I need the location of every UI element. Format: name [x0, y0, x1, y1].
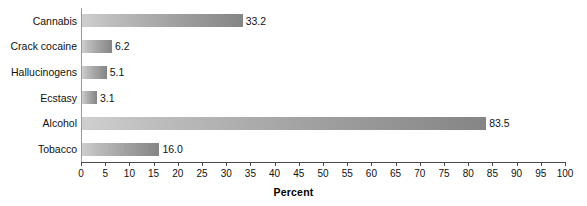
bar-row: Hallucinogens5.1	[0, 59, 587, 85]
bar-chart: Cannabis33.2Crack cocaine6.2Hallucinogen…	[0, 0, 587, 206]
x-tick	[81, 162, 82, 166]
x-tick	[323, 162, 324, 166]
category-label: Tobacco	[0, 143, 77, 155]
bar-row: Crack cocaine6.2	[0, 34, 587, 60]
x-tick	[105, 162, 106, 166]
x-tick	[565, 162, 566, 166]
bar-value-label: 33.2	[246, 15, 266, 27]
x-tick	[492, 162, 493, 166]
bar-value-label: 6.2	[115, 40, 130, 52]
bar-value-label: 3.1	[100, 92, 115, 104]
x-tick	[541, 162, 542, 166]
x-tick	[178, 162, 179, 166]
x-tick	[396, 162, 397, 166]
bar	[82, 117, 486, 130]
bar-row: Ecstasy3.1	[0, 85, 587, 111]
bar	[82, 40, 112, 53]
bar	[82, 14, 243, 27]
bar-value-label: 83.5	[489, 117, 509, 129]
x-axis-title: Percent	[0, 186, 587, 198]
category-label: Alcohol	[0, 117, 77, 129]
bar-row: Alcohol83.5	[0, 111, 587, 137]
bar-row: Tobacco16.0	[0, 136, 587, 162]
x-tick	[347, 162, 348, 166]
category-label: Ecstasy	[0, 92, 77, 104]
bar	[82, 66, 107, 79]
x-tick	[275, 162, 276, 166]
x-tick	[250, 162, 251, 166]
x-tick	[444, 162, 445, 166]
x-tick	[202, 162, 203, 166]
category-label: Hallucinogens	[0, 66, 77, 78]
x-tick	[129, 162, 130, 166]
category-label: Cannabis	[0, 15, 77, 27]
x-tick	[468, 162, 469, 166]
bar-row: Cannabis33.2	[0, 8, 587, 34]
bar-value-label: 16.0	[162, 143, 182, 155]
x-tick	[371, 162, 372, 166]
x-tick	[299, 162, 300, 166]
x-tick	[226, 162, 227, 166]
bar	[82, 143, 159, 156]
bar-value-label: 5.1	[110, 66, 125, 78]
category-label: Crack cocaine	[0, 40, 77, 52]
bar-rows: Cannabis33.2Crack cocaine6.2Hallucinogen…	[0, 8, 587, 162]
bar	[82, 91, 97, 104]
x-tick	[420, 162, 421, 166]
x-tick	[154, 162, 155, 166]
x-tick	[517, 162, 518, 166]
x-tick-label: 100	[550, 168, 580, 180]
plot-area: Cannabis33.2Crack cocaine6.2Hallucinogen…	[0, 0, 587, 206]
